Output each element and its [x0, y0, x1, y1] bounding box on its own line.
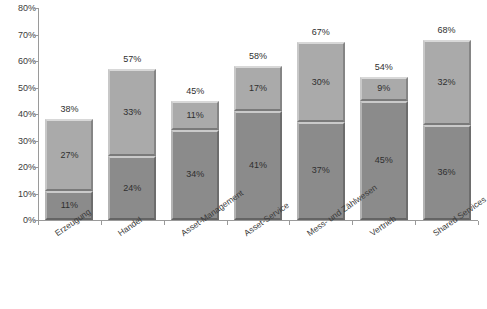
- bar-segment-value: 32%: [438, 78, 456, 87]
- y-axis-tick-label: 50%: [2, 84, 36, 93]
- bar-segment-value: 41%: [249, 161, 267, 170]
- bar-segment-value: 11%: [186, 111, 203, 120]
- x-axis-tick-mark: [101, 221, 102, 225]
- bar-total-label: 58%: [220, 52, 296, 61]
- bar-group[interactable]: 24%33%57%: [108, 69, 156, 220]
- bar-total-label: 67%: [283, 28, 359, 37]
- bar-segment-lower[interactable]: 24%: [108, 156, 156, 220]
- y-axis-tick-label: 10%: [2, 190, 36, 199]
- y-axis-tick-label: 70%: [2, 31, 36, 40]
- bar-segment-value: 9%: [377, 84, 390, 93]
- y-axis-tick-mark: [34, 88, 38, 89]
- x-axis-tick-mark: [415, 221, 416, 225]
- bar-total-label: 54%: [346, 63, 422, 72]
- bar-segment-upper[interactable]: 11%: [171, 101, 219, 130]
- bar-segment-upper[interactable]: 17%: [234, 66, 282, 111]
- bar-segment-value: 37%: [312, 166, 330, 175]
- bar-segment-upper[interactable]: 30%: [297, 42, 345, 122]
- y-axis-tick-label: 20%: [2, 163, 36, 172]
- y-axis-tick-label: 0%: [2, 216, 36, 225]
- bar-segment-upper[interactable]: 33%: [108, 69, 156, 156]
- bar-group[interactable]: 11%27%38%: [45, 119, 93, 220]
- bar-segment-lower[interactable]: 41%: [234, 111, 282, 220]
- bar-segment-upper[interactable]: 32%: [423, 40, 471, 125]
- plot-area: 11%27%38%24%33%57%34%11%45%41%17%58%37%3…: [38, 8, 478, 220]
- y-axis-tick-label: 60%: [2, 57, 36, 66]
- bar-segment-lower[interactable]: 45%: [360, 101, 408, 220]
- y-axis-tick-label: 30%: [2, 137, 36, 146]
- x-axis-tick-mark: [38, 221, 39, 225]
- y-axis-tick-mark: [34, 114, 38, 115]
- y-axis-tick-mark: [34, 141, 38, 142]
- x-axis-tick-mark: [164, 221, 165, 225]
- bar-segment-value: 45%: [375, 156, 393, 165]
- bar-group[interactable]: 36%32%68%: [423, 40, 471, 220]
- bar-segment-lower[interactable]: 37%: [297, 122, 345, 220]
- bar-segment-upper[interactable]: 9%: [360, 77, 408, 101]
- bar-group[interactable]: 37%30%67%: [297, 42, 345, 220]
- y-axis-tick-mark: [34, 167, 38, 168]
- x-axis-category-labels: ErzeugungHandelAsset-ManagementAsset-Ser…: [38, 224, 478, 309]
- bar-group[interactable]: 34%11%45%: [171, 101, 219, 220]
- y-axis-tick-mark: [34, 8, 38, 9]
- bar-segment-value: 34%: [186, 170, 204, 179]
- bar-segment-value: 33%: [123, 108, 141, 117]
- bar-segment-value: 17%: [249, 84, 267, 93]
- bar-segment-value: 24%: [123, 184, 141, 193]
- bar-segment-value: 30%: [312, 78, 330, 87]
- y-axis-tick-mark: [34, 194, 38, 195]
- bar-segment-value: 27%: [60, 151, 78, 160]
- bar-total-label: 45%: [157, 87, 233, 96]
- x-axis-tick-mark: [352, 221, 353, 225]
- y-axis-tick-label: 80%: [2, 4, 36, 13]
- bar-segment-upper[interactable]: 27%: [45, 119, 93, 191]
- bar-segment-value: 36%: [438, 168, 456, 177]
- bar-segment-value: 11%: [61, 201, 78, 210]
- x-axis-tick-mark: [227, 221, 228, 225]
- x-axis-tick-mark: [289, 221, 290, 225]
- x-axis-tick-mark: [478, 221, 479, 225]
- y-axis-tick-mark: [34, 35, 38, 36]
- y-axis-tick-mark: [34, 61, 38, 62]
- bar-total-label: 38%: [31, 105, 107, 114]
- bar-total-label: 68%: [409, 26, 485, 35]
- bar-total-label: 57%: [94, 55, 170, 64]
